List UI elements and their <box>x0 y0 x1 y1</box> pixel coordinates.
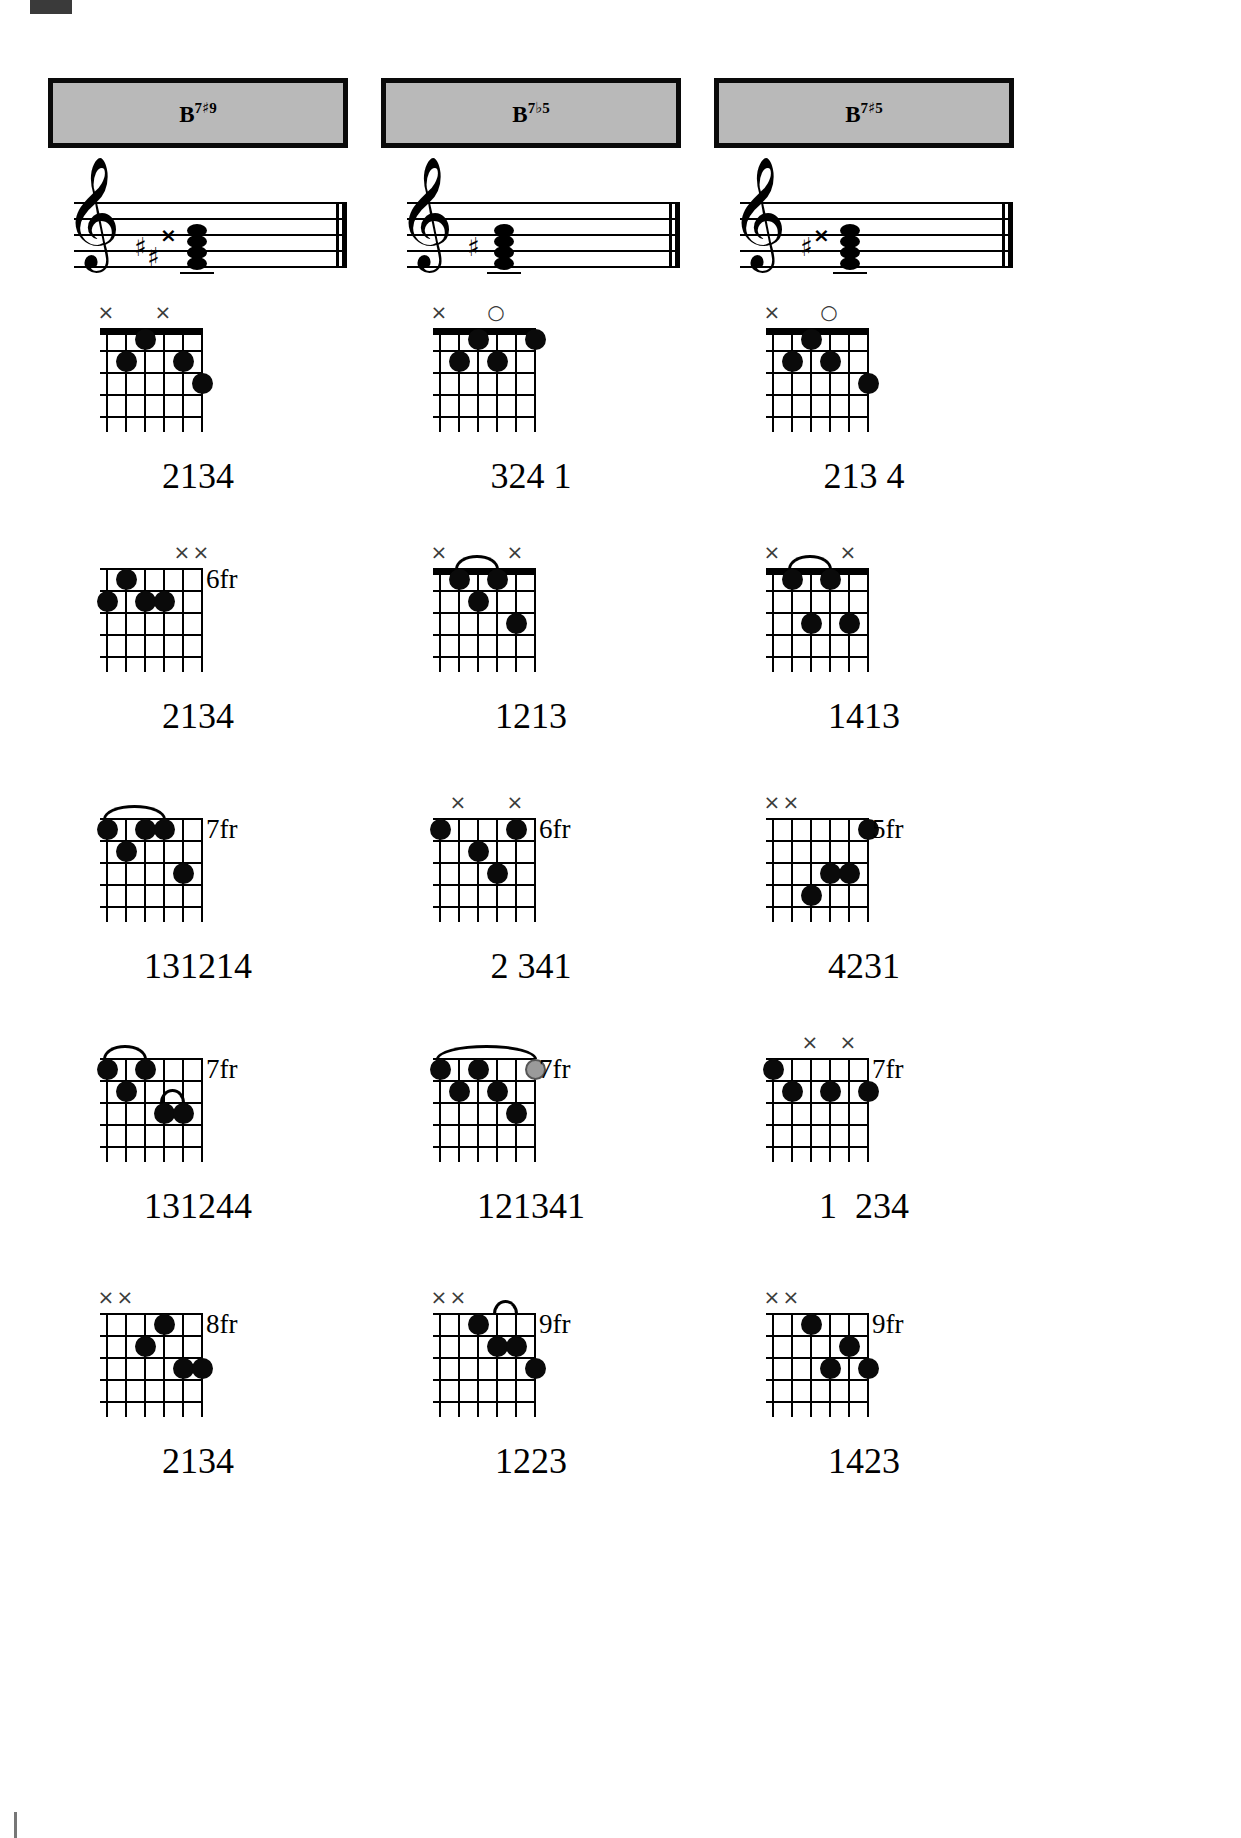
string-line-1 <box>106 328 108 432</box>
string-line-5 <box>848 328 850 432</box>
chord-diagram-block: 7fr131244 <box>48 1030 378 1250</box>
ledger-line <box>180 272 214 274</box>
fingering-numbers: 4231 <box>714 948 1014 984</box>
string-line-2 <box>458 818 460 922</box>
fret-line <box>433 1379 535 1381</box>
finger-dot <box>97 819 118 840</box>
fingering-numbers: 131244 <box>48 1188 348 1224</box>
fret-line <box>433 1357 535 1359</box>
fret-line <box>100 634 202 636</box>
finger-dot <box>154 1103 175 1124</box>
chord-diagram-b7b5-6fr[interactable]: ××6fr <box>433 818 535 922</box>
chord-chart-page: B7♯9𝄞♯♯×××2134××6fr21347fr1312147fr13124… <box>0 0 1241 1838</box>
finger-dot <box>116 351 137 372</box>
finger-dot <box>506 1103 527 1124</box>
chord-diagram-b7s9-7fr[interactable]: 7fr <box>100 818 202 922</box>
chord-diagram-b7s9-7fr-b[interactable]: 7fr <box>100 1058 202 1162</box>
fingering-numbers: 121341 <box>381 1188 681 1224</box>
fret-line <box>100 840 202 842</box>
fret-line <box>100 1146 202 1148</box>
fret-position-label: 7fr <box>872 1056 903 1083</box>
fret-line <box>766 840 868 842</box>
chord-diagram-b7s5-2[interactable]: ×× <box>766 568 868 672</box>
mute-x-icon: × <box>191 542 211 562</box>
fret-position-label: 7fr <box>539 1056 570 1083</box>
fingering-numbers: 2134 <box>48 1443 348 1479</box>
finger-dot <box>820 863 841 884</box>
finger-dot <box>487 863 508 884</box>
chord-name-label: B7♯5 <box>845 99 883 128</box>
chord-diagram-b7s5-7fr[interactable]: ××7fr <box>766 1058 868 1162</box>
chord-name-label: B7♭5 <box>512 99 549 128</box>
chord-diagram-b7b5-open[interactable]: ×○ <box>433 328 535 432</box>
finger-dot <box>839 613 860 634</box>
finger-dot <box>506 1336 527 1357</box>
finger-dot <box>468 841 489 862</box>
string-line-2 <box>125 1313 127 1417</box>
fret-line <box>100 416 202 418</box>
barline-thin <box>1002 202 1005 268</box>
mute-x-icon: × <box>762 792 782 812</box>
staff-notation: 𝄞♯× <box>722 172 1022 288</box>
string-line-5 <box>848 1313 850 1417</box>
chord-header-0: B7♯9 <box>48 78 348 148</box>
top-fret-line <box>766 818 868 820</box>
fret-line <box>766 1080 868 1082</box>
finger-dot <box>116 569 137 590</box>
chord-diagram-b7s5-9fr[interactable]: ××9fr <box>766 1313 868 1417</box>
fret-line <box>100 1379 202 1381</box>
string-line-5 <box>182 328 184 432</box>
string-line-5 <box>515 328 517 432</box>
barline-thin <box>669 202 672 268</box>
string-line-1 <box>106 568 108 672</box>
string-line-1 <box>772 1313 774 1417</box>
barre-arc <box>103 805 166 819</box>
mute-x-icon: × <box>781 792 801 812</box>
chord-diagram-b7b5-2[interactable]: ×× <box>433 568 535 672</box>
fret-line <box>766 350 868 352</box>
string-line-3 <box>810 818 812 922</box>
barre-arc <box>436 1045 537 1059</box>
mute-x-icon: × <box>96 302 116 322</box>
finger-dot <box>820 351 841 372</box>
fret-line <box>433 394 535 396</box>
treble-clef-icon: 𝄞 <box>730 168 787 256</box>
fret-line <box>100 884 202 886</box>
mute-x-icon: × <box>448 1287 468 1307</box>
fret-line <box>100 656 202 658</box>
fret-line <box>766 1102 868 1104</box>
fret-line <box>100 906 202 908</box>
finger-dot <box>525 329 546 350</box>
finger-dot <box>820 569 841 590</box>
string-line-6 <box>867 568 869 672</box>
fret-line <box>433 1401 535 1403</box>
finger-dot <box>173 351 194 372</box>
finger-dot <box>468 591 489 612</box>
chord-diagram-block: ××6fr2 341 <box>381 790 711 1010</box>
string-line-4 <box>496 1058 498 1162</box>
chord-diagram-b7b5-9fr[interactable]: ××9fr <box>433 1313 535 1417</box>
finger-dot <box>135 1059 156 1080</box>
fret-line <box>433 1146 535 1148</box>
chord-diagram-b7s5-open[interactable]: ×○ <box>766 328 868 432</box>
chord-diagram-b7s5-5fr[interactable]: ××5fr <box>766 818 868 922</box>
barre-arc <box>788 555 832 569</box>
finger-dot <box>449 569 470 590</box>
chord-diagram-b7b5-7fr[interactable]: 7fr <box>433 1058 535 1162</box>
chord-diagram-b7s9-open[interactable]: ×× <box>100 328 202 432</box>
fingering-numbers: 324 1 <box>381 458 681 494</box>
chord-diagram-block: 7fr121341 <box>381 1030 711 1250</box>
chord-diagram-block: ××5fr4231 <box>714 790 1044 1010</box>
string-line-4 <box>496 328 498 432</box>
finger-dot <box>449 351 470 372</box>
fret-line <box>766 1146 868 1148</box>
finger-dot <box>487 1081 508 1102</box>
chord-header-2: B7♯5 <box>714 78 1014 148</box>
top-fret-line <box>100 568 202 570</box>
chord-column-2: B7♯5𝄞♯××○213 4××1413××5fr4231××7fr1 234×… <box>714 0 1044 1838</box>
chord-diagram-b7s9-8fr[interactable]: ××8fr <box>100 1313 202 1417</box>
mute-x-icon: × <box>448 792 468 812</box>
chord-diagram-block: ××2134 <box>48 300 378 520</box>
fret-line <box>433 1124 535 1126</box>
chord-diagram-b7s9-6fr[interactable]: ××6fr <box>100 568 202 672</box>
